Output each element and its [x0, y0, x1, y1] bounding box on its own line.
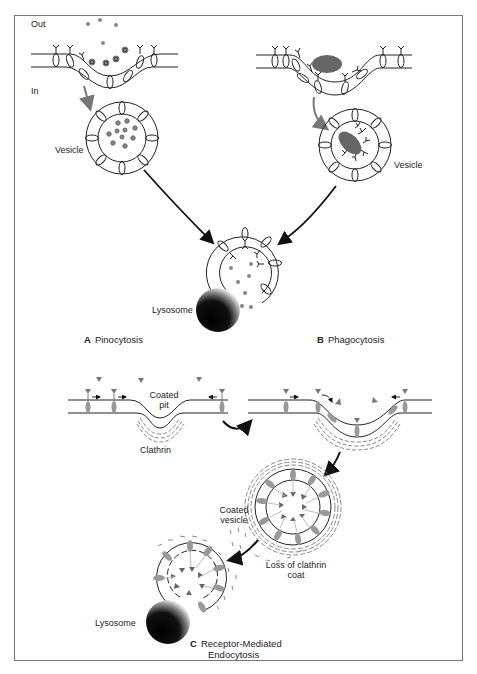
caption-a: APinocytosis	[84, 334, 143, 345]
fused-vesicle-ab	[196, 228, 282, 333]
lysosome-ab	[196, 288, 240, 332]
label-lysosome-ab: Lysosome	[152, 305, 193, 315]
label-loss-line2: coat	[256, 570, 336, 580]
endocytosis-diagram	[0, 0, 477, 674]
label-lysosome-c: Lysosome	[95, 618, 136, 628]
caption-c-line2: Endocytosis	[208, 649, 259, 660]
lysosome-c	[146, 600, 190, 644]
panel-b-phagocytosis	[256, 46, 412, 243]
label-coated-vesicle: Coated vesicle	[214, 505, 254, 525]
label-coated-pit-line1: Coated	[144, 390, 184, 400]
label-clathrin: Clathrin	[140, 445, 171, 455]
caption-b-letter: B	[317, 334, 324, 345]
panel-a-pinocytosis	[31, 18, 212, 242]
label-loss-line1: Loss of clathrin	[256, 560, 336, 570]
caption-a-letter: A	[84, 334, 91, 345]
caption-a-title: Pinocytosis	[95, 334, 143, 345]
label-coated-vesicle-line2: vesicle	[214, 515, 254, 525]
caption-c-title-line1: Receptor-Mediated	[201, 638, 282, 649]
label-loss-of-clathrin-coat: Loss of clathrin coat	[256, 560, 336, 580]
label-coated-vesicle-line1: Coated	[214, 505, 254, 515]
label-vesicle-a: Vesicle	[55, 145, 84, 155]
caption-c-letter: C	[190, 638, 197, 649]
caption-b-title: Phagocytosis	[328, 334, 385, 345]
label-out: Out	[31, 19, 46, 29]
label-coated-pit-line2: pit	[144, 400, 184, 410]
label-in: In	[31, 86, 39, 96]
label-vesicle-b: Vesicle	[394, 160, 423, 170]
caption-b: BPhagocytosis	[317, 334, 384, 345]
label-coated-pit: Coated pit	[144, 390, 184, 410]
caption-c: CReceptor-Mediated	[190, 638, 282, 649]
